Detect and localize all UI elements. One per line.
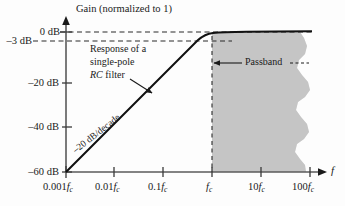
response-annotation-line1: Response of a [90, 44, 146, 54]
x-tick-prefix: 100 [292, 181, 308, 192]
x-axis-symbol: f [331, 165, 334, 176]
response-annotation-line3: RC filter [90, 70, 125, 80]
x-tick-prefix: 10 [248, 181, 259, 192]
response-annotation-line2: single-pole [90, 57, 134, 67]
x-axis-arrowhead [318, 168, 327, 176]
x-tick-sub: c [261, 185, 264, 194]
rc-italic: RC [90, 69, 103, 80]
y-tick-label-minus60db: –60 dB [13, 167, 59, 178]
y-tick-label-minus20db: –20 dB [13, 78, 59, 89]
x-tick-prefix: 0.001 [43, 181, 67, 192]
y-tick-label-minus3db: –3 dB [0, 36, 32, 47]
x-tick-label-3: fc [206, 182, 212, 194]
y-tick-label-0db: 0 dB [28, 27, 60, 38]
x-tick-prefix: 0.1 [148, 181, 161, 192]
passband-shaded-region [212, 32, 312, 172]
x-tick-label-2: 0.1fc [148, 182, 167, 194]
x-tick-sub: c [70, 185, 73, 194]
y-axis-arrowhead [62, 16, 70, 25]
x-tick-sub: c [164, 185, 167, 194]
response-leader-arrow [130, 79, 152, 93]
y-tick-label-minus40db: –40 dB [13, 122, 59, 133]
passband-label: Passband [245, 57, 282, 67]
x-tick-label-1: 0.01fc [95, 182, 120, 194]
x-tick-sub: c [209, 185, 212, 194]
x-tick-label-4: 10fc [248, 182, 265, 194]
axis-title: Gain (normalized to 1) [76, 4, 172, 15]
x-tick-label-5: 100fc [292, 182, 314, 194]
x-tick-prefix: 0.01 [95, 181, 113, 192]
filter-word: filter [103, 69, 125, 80]
bode-plot-figure: Gain (normalized to 1) 0 dB –3 dB –20 dB… [0, 0, 345, 206]
x-tick-sub: c [311, 185, 314, 194]
x-tick-label-0: 0.001fc [43, 182, 73, 194]
x-tick-sub: c [116, 185, 119, 194]
